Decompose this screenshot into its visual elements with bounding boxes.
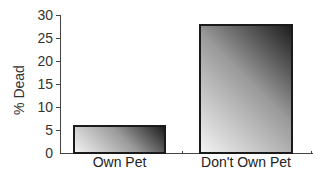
y-tick-label-25: 25 (23, 31, 53, 45)
y-tick-label-10: 10 (23, 100, 53, 114)
x-tick (311, 151, 312, 154)
y-tick-10 (56, 107, 61, 108)
y-tick-label-0: 0 (23, 146, 53, 160)
y-tick-label-20: 20 (23, 54, 53, 68)
y-tick-15 (56, 84, 61, 85)
bar-own-pet (73, 125, 166, 154)
y-tick-label-30: 30 (23, 8, 53, 22)
category-label-own-pet: Own Pet (73, 154, 166, 170)
y-tick-30 (56, 15, 61, 16)
y-tick-20 (56, 61, 61, 62)
y-tick-label-5: 5 (23, 123, 53, 137)
y-tick-label-15: 15 (23, 77, 53, 91)
bar-dont-own-pet (199, 24, 293, 154)
y-tick-25 (56, 38, 61, 39)
category-label-dont-own-pet: Don't Own Pet (191, 154, 301, 170)
y-tick-5 (56, 130, 61, 131)
x-tick (182, 151, 183, 154)
bar-chart: % Dead 30 25 20 15 10 5 0 Own Pet Don't … (0, 0, 323, 174)
